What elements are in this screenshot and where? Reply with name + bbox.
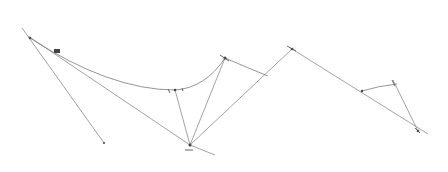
tick-mark: [182, 88, 183, 91]
small-arc-curve: [362, 84, 397, 91]
main-arc-curve: [30, 38, 225, 90]
node-c: [174, 89, 177, 92]
right-arc-curve: [225, 58, 268, 76]
long-diagonal-line: [28, 36, 190, 145]
node-e: [189, 144, 192, 147]
line-diagram: [0, 0, 448, 172]
line-e-tail: [190, 145, 215, 155]
node-j: [103, 142, 105, 144]
node-g: [361, 90, 363, 92]
node-b-marker: [54, 49, 60, 53]
line-f-i: [292, 49, 428, 134]
node-a: [29, 37, 31, 39]
diagram-canvas: [0, 0, 448, 172]
left-diagonal-line: [22, 28, 104, 143]
line-h-i: [393, 80, 418, 131]
line-d-e: [190, 58, 225, 145]
line-e-f: [190, 49, 292, 145]
tick-mark: [287, 46, 296, 51]
